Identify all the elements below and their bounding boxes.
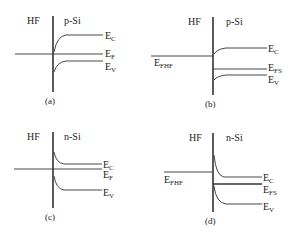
hf-label: HF (27, 131, 40, 142)
efhf-label: EFHF (164, 174, 183, 187)
conduction-band-edge (54, 152, 102, 164)
efs-label: EFS (263, 184, 277, 197)
si-label: p-Si (64, 15, 81, 26)
ev-label: EV (263, 201, 274, 214)
panel-a: HF p-Si EC EF EV (a) (15, 15, 116, 106)
si-label: p-Si (226, 16, 243, 27)
band-diagram-figure: HF p-Si EC EF EV (a) HF p-Si EFHF EC EFS… (0, 0, 291, 232)
panel-caption: (a) (45, 96, 55, 106)
conduction-band-edge (214, 155, 262, 177)
valence-band-edge (214, 75, 267, 80)
valence-band-edge (214, 186, 262, 204)
ec-label: EC (268, 43, 279, 56)
si-label: n-Si (226, 132, 243, 143)
ev-label: EV (103, 187, 114, 200)
ef-label: EF (105, 48, 115, 61)
panel-c: HF n-Si EC EF EV (c) (14, 131, 114, 222)
ev-label: EV (268, 74, 279, 87)
valence-band-edge (54, 176, 102, 190)
hf-label: HF (189, 132, 202, 143)
panel-d: HF n-Si EFHF EC EFS EV (d) (164, 132, 277, 226)
hf-label: HF (188, 16, 201, 27)
ev-label: EV (105, 61, 116, 74)
conduction-band-edge (54, 35, 103, 52)
ec-label: EC (105, 30, 116, 43)
efhf-label: EFHF (154, 57, 173, 70)
valence-band-edge (54, 61, 103, 72)
si-label: n-Si (64, 131, 81, 142)
conduction-band-edge (214, 48, 267, 54)
panel-caption: (b) (205, 99, 216, 109)
panel-b: HF p-Si EFHF EC EFS EV (b) (151, 16, 282, 109)
panel-caption: (d) (205, 216, 216, 226)
hf-label: HF (27, 15, 40, 26)
panel-caption: (c) (45, 212, 55, 222)
